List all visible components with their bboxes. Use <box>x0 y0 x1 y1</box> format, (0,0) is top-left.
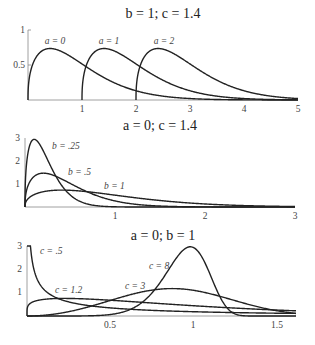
label-c12: c = 1.2 <box>55 285 83 295</box>
x-tick: 1.5 <box>271 320 283 330</box>
curve-b1 <box>25 190 295 207</box>
label-b05: b = .5 <box>68 167 91 177</box>
label-a2: a = 2 <box>154 36 175 46</box>
x-tick: 0.5 <box>104 320 116 330</box>
x-tick: 5 <box>296 104 301 114</box>
x-tick: 2 <box>203 211 208 221</box>
x-tick: 3 <box>188 104 193 114</box>
x-tick: 1 <box>191 320 196 330</box>
x-tick: 1 <box>80 104 85 114</box>
curve-a1 <box>82 49 298 100</box>
weibull-figure: b = 1; c = 1.4 1 0.5 1 2 3 4 5 a = 0 a =… <box>0 0 315 345</box>
panel-bottom: a = 0; b = 1 3 2 1 0.5 1 1.5 c = .5 c = … <box>17 228 296 330</box>
y-tick: 2 <box>15 156 20 166</box>
label-c8: c = 8 <box>149 261 169 271</box>
panel-middle-title: a = 0; c = 1.4 <box>123 118 197 133</box>
label-c3: c = 3 <box>125 281 145 291</box>
label-b025: b = .25 <box>52 141 80 151</box>
curve-a2 <box>136 49 298 100</box>
label-c05: c = .5 <box>40 246 63 256</box>
x-tick: 3 <box>293 211 298 221</box>
y-tick: 1 <box>15 179 20 189</box>
panel-bottom-title: a = 0; b = 1 <box>131 228 195 243</box>
x-tick: 2 <box>134 104 139 114</box>
panel-middle: a = 0; c = 1.4 2 1 3 1 2 3 b = .25 b = .… <box>15 118 297 221</box>
panel-top: b = 1; c = 1.4 1 0.5 1 2 3 4 5 a = 0 a =… <box>13 6 301 114</box>
panel-top-title: b = 1; c = 1.4 <box>126 6 201 21</box>
curve-a0 <box>28 49 298 100</box>
y-tick: 3 <box>15 133 20 143</box>
y-tick: 0.5 <box>13 60 25 70</box>
y-tick: 2 <box>17 264 22 274</box>
x-tick: 4 <box>242 104 247 114</box>
label-a0: a = 0 <box>45 36 66 46</box>
x-tick: 1 <box>113 211 118 221</box>
y-tick: 3 <box>17 241 22 251</box>
label-a1: a = 1 <box>99 36 120 46</box>
label-b1: b = 1 <box>104 181 125 191</box>
y-tick: 1 <box>17 287 22 297</box>
y-tick: 1 <box>20 25 25 35</box>
